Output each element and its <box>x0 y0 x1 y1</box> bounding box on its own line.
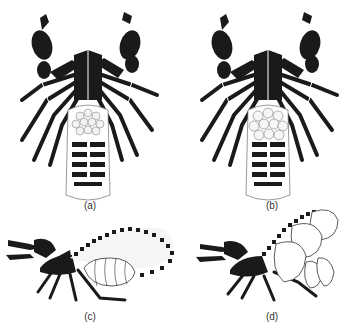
panel-a-illustration <box>22 12 157 200</box>
figure-canvas <box>0 0 347 328</box>
panel-c-label: (c) <box>75 311 105 322</box>
egg-mass-icon <box>249 108 288 140</box>
panel-b-label: (b) <box>257 200 287 211</box>
panel-b-illustration <box>202 12 337 200</box>
panel-c-illustration <box>6 227 174 300</box>
panel-a-label: (a) <box>75 200 105 211</box>
panel-d-illustration <box>196 210 338 300</box>
panel-d-label: (d) <box>257 311 287 322</box>
